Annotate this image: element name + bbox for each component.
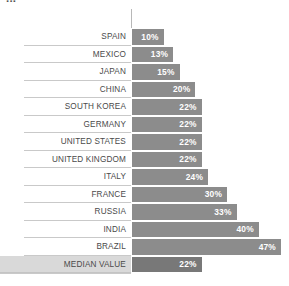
chart-row: INDIA40% [0, 221, 289, 239]
chart-row: RUSSIA33% [0, 203, 289, 221]
chart-row: ITALY24% [0, 168, 289, 186]
bar: 40% [132, 222, 259, 238]
bar-value-label: 20% [173, 84, 190, 94]
bar-value-label: 33% [214, 207, 231, 217]
bar: 20% [132, 82, 195, 98]
baseline-rule [0, 273, 131, 274]
category-label: MEDIAN VALUE [0, 256, 131, 274]
bar-value-label: 13% [151, 49, 168, 59]
bar: 47% [132, 239, 281, 255]
chart-row: UNITED KINGDOM22% [0, 151, 289, 169]
category-label: SPAIN [0, 28, 131, 46]
category-label: ITALY [0, 168, 131, 186]
category-label: JAPAN [0, 63, 131, 81]
bar-value-label: 40% [236, 224, 253, 234]
chart-row-median: MEDIAN VALUE22% [0, 256, 289, 274]
chart-row: CHINA20% [0, 81, 289, 99]
chart-row: MEXICO13% [0, 46, 289, 64]
bar-value-label: 47% [259, 242, 276, 252]
bar-value-label: 22% [179, 137, 196, 147]
category-label: FRANCE [0, 186, 131, 204]
category-label: UNITED STATES [0, 133, 131, 151]
chart-row: UNITED STATES22% [0, 133, 289, 151]
bar-value-label: 22% [179, 102, 196, 112]
bar: 22% [132, 134, 202, 150]
bar: 33% [132, 204, 237, 220]
chart-row: BRAZIL47% [0, 238, 289, 256]
category-label: SOUTH KOREA [0, 98, 131, 116]
chart-row: GERMANY22% [0, 116, 289, 134]
category-label: RUSSIA [0, 203, 131, 221]
bar-value-label: 30% [205, 189, 222, 199]
category-label: GERMANY [0, 116, 131, 134]
axis-tick-stub [131, 9, 132, 28]
bar: 24% [132, 169, 208, 185]
chart-title-clipped: ... [0, 0, 289, 7]
bar: 22% [132, 117, 202, 133]
category-label: BRAZIL [0, 238, 131, 256]
bar-value-label: 24% [186, 172, 203, 182]
category-label: UNITED KINGDOM [0, 151, 131, 169]
bar: 22% [132, 99, 202, 115]
chart-row: SOUTH KOREA22% [0, 98, 289, 116]
bar-value-label: 15% [157, 67, 174, 77]
chart-title: ... [6, 0, 16, 4]
bar: 22% [132, 257, 202, 273]
bar: 15% [132, 64, 180, 80]
bar-value-label: 22% [179, 119, 196, 129]
chart-row: FRANCE30% [0, 186, 289, 204]
bar: 13% [132, 47, 173, 63]
category-label: INDIA [0, 221, 131, 239]
category-label: MEXICO [0, 46, 131, 64]
plot-area: SPAIN10%MEXICO13%JAPAN15%CHINA20%SOUTH K… [0, 28, 289, 273]
bar: 10% [132, 29, 164, 45]
bar-value-label: 10% [141, 32, 158, 42]
bar-chart: ... SPAIN10%MEXICO13%JAPAN15%CHINA20%SOU… [0, 0, 289, 286]
chart-row: JAPAN15% [0, 63, 289, 81]
bar-value-label: 22% [179, 259, 196, 269]
bar: 22% [132, 152, 202, 168]
bar: 30% [132, 187, 227, 203]
category-label: CHINA [0, 81, 131, 99]
chart-row: SPAIN10% [0, 28, 289, 46]
bar-value-label: 22% [179, 154, 196, 164]
